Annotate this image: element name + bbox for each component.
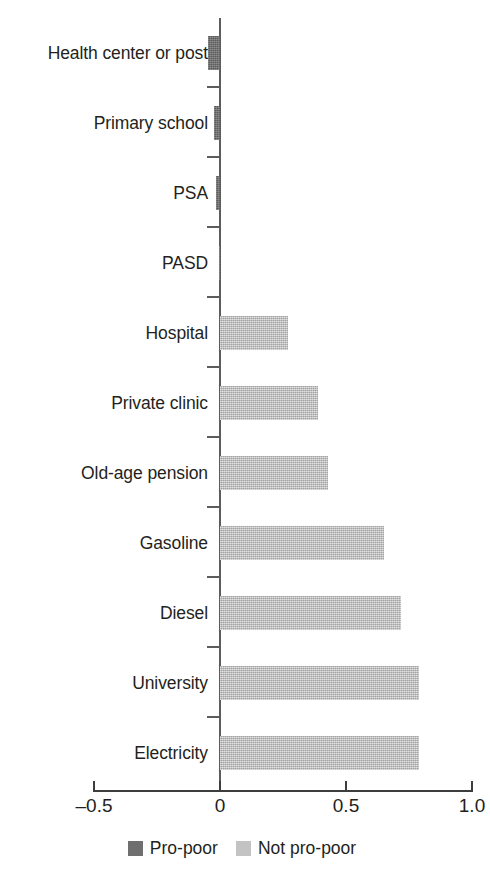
bar-positive <box>220 316 288 350</box>
bar-positive <box>220 386 318 420</box>
x-axis-tick <box>471 781 473 792</box>
x-axis-tick-label: 1.0 <box>427 795 490 817</box>
bar-row: Gasoline <box>0 508 484 578</box>
category-label: Electricity <box>0 718 208 788</box>
x-axis-tick <box>219 781 221 792</box>
y-axis-tick <box>207 506 220 508</box>
bar-row: Private clinic <box>0 368 484 438</box>
y-axis-tick <box>207 296 220 298</box>
bar-row: Health center or post <box>0 18 484 88</box>
category-label: Private clinic <box>0 368 208 438</box>
bar-row: Primary school <box>0 88 484 158</box>
y-axis-tick <box>207 716 220 718</box>
legend-label: Pro-poor <box>150 838 218 859</box>
category-label: Health center or post <box>0 18 208 88</box>
x-axis-tick-label: 0.5 <box>301 795 391 817</box>
legend-item: Pro-poor <box>128 838 218 859</box>
bar-row: Electricity <box>0 718 484 788</box>
x-axis-tick-label: 0 <box>175 795 265 817</box>
plot-area: Health center or postPrimary schoolPSAPA… <box>0 0 484 790</box>
y-axis-tick <box>207 436 220 438</box>
bar-positive <box>220 526 384 560</box>
legend-item: Not pro-poor <box>236 838 356 859</box>
bar-positive <box>220 666 419 700</box>
bar-row: PASD <box>0 228 484 298</box>
bar-positive <box>220 456 328 490</box>
bar-negative <box>208 36 220 70</box>
x-axis-tick <box>345 781 347 792</box>
x-axis-line <box>93 790 472 792</box>
bar-positive <box>220 596 401 630</box>
y-axis-tick <box>207 646 220 648</box>
category-label: Gasoline <box>0 508 208 578</box>
bar-negative <box>216 176 220 210</box>
category-label: PSA <box>0 158 208 228</box>
bar-negative <box>214 106 220 140</box>
bar-positive <box>220 736 419 770</box>
bar-row: Hospital <box>0 298 484 368</box>
y-axis-tick <box>207 576 220 578</box>
bar-row: University <box>0 648 484 718</box>
bar-row: Diesel <box>0 578 484 648</box>
y-axis-tick <box>207 86 220 88</box>
category-label: Diesel <box>0 578 208 648</box>
y-axis-tick <box>207 226 220 228</box>
category-label: Old-age pension <box>0 438 208 508</box>
legend-swatch-icon <box>128 841 143 856</box>
x-axis-tick-label: –0.5 <box>49 795 139 817</box>
y-axis-tick <box>207 366 220 368</box>
category-label: PASD <box>0 228 208 298</box>
chart-legend: Pro-poorNot pro-poor <box>0 838 484 859</box>
bar-negative <box>219 246 220 280</box>
category-label: University <box>0 648 208 718</box>
category-label: Hospital <box>0 298 208 368</box>
bar-row: PSA <box>0 158 484 228</box>
x-axis-tick <box>93 781 95 792</box>
legend-label: Not pro-poor <box>258 838 356 859</box>
y-axis-tick <box>207 156 220 158</box>
category-label: Primary school <box>0 88 208 158</box>
bar-row: Old-age pension <box>0 438 484 508</box>
legend-swatch-icon <box>236 841 251 856</box>
